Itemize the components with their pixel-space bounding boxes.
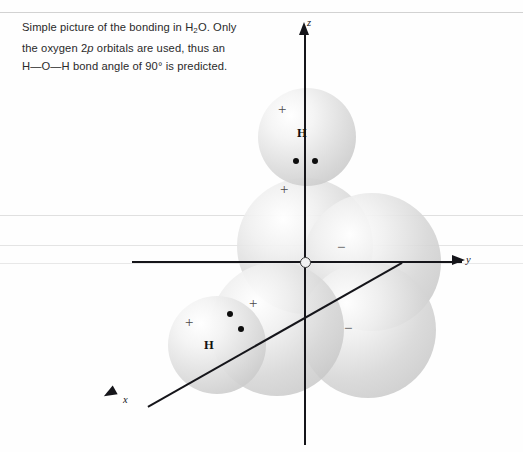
z-axis-line xyxy=(304,30,306,445)
hydrogen-top-sphere xyxy=(258,88,356,186)
hydrogen-top-plus-sign: + xyxy=(278,102,286,117)
hydrogen-top-label: H xyxy=(297,127,307,140)
x-axis-label: x xyxy=(123,394,128,405)
oxygen-2p-z-lower-minus-sign: − xyxy=(344,321,352,336)
orbital-diagram: z y x + H + − − + + H xyxy=(0,0,523,452)
oxygen-2p-z-upper-plus-sign: + xyxy=(280,182,288,197)
z-axis-label: z xyxy=(307,17,311,28)
x-axis-arrow-icon xyxy=(101,385,117,400)
figure-page: Simple picture of the bonding in H2O. On… xyxy=(0,0,523,452)
oxygen-2p-y-positive-minus-sign: − xyxy=(337,240,345,255)
oxygen-2p-x-upper-plus-sign: + xyxy=(249,296,257,311)
hydrogen-lower-plus-sign: + xyxy=(185,315,193,330)
hydrogen-lower-label: H xyxy=(204,339,214,352)
y-axis-arrow-icon xyxy=(452,255,465,265)
y-axis-label: y xyxy=(466,254,471,265)
y-axis-line xyxy=(132,261,462,263)
oxygen-nucleus-origin xyxy=(300,257,311,268)
